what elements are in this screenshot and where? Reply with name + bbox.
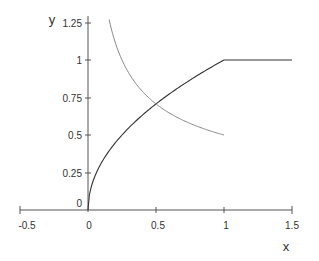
series-inverse-sqrt (109, 20, 224, 136)
x-tick-label: 0.5 (151, 220, 165, 231)
y-tick-label: 0.25 (63, 168, 83, 179)
x-tick-label: 1 (223, 220, 229, 231)
y-tick-label: 1.25 (63, 18, 83, 29)
x-tick-label: -0.5 (18, 220, 36, 231)
y-tick-label: 0.75 (63, 93, 83, 104)
y-tick-label: 1 (76, 55, 82, 66)
chart-canvas: -0.5 0 0.5 1 1.5 0 0.25 0.5 0.75 1 1.25 … (0, 0, 319, 261)
series-sqrt-capped (88, 60, 292, 210)
x-axis-title: x (283, 239, 290, 254)
y-tick-label: 0 (76, 198, 82, 209)
x-tick-label: 0 (86, 220, 92, 231)
y-tick-label: 0.5 (68, 130, 82, 141)
y-axis-title: y (49, 12, 56, 27)
x-tick-label: 1.5 (285, 220, 299, 231)
